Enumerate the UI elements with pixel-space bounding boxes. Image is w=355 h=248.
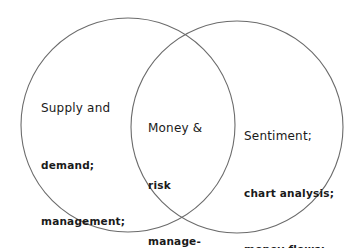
label-line: Supply and bbox=[41, 99, 125, 118]
label-line: demand; bbox=[41, 156, 125, 175]
label-line: money flows; bbox=[244, 240, 334, 248]
label-line: management; bbox=[41, 212, 125, 231]
label-line: risk bbox=[148, 176, 202, 195]
label-line: Sentiment; bbox=[244, 127, 334, 146]
right-circle-label: Sentiment; chart analysis; money flows; … bbox=[244, 89, 334, 248]
intersection-label: Money & risk manage- ment bbox=[148, 81, 202, 248]
label-line: manage- bbox=[148, 232, 202, 248]
label-line: chart analysis; bbox=[244, 184, 334, 203]
label-line: Money & bbox=[148, 119, 202, 138]
left-circle-label: Supply and demand; management; company's… bbox=[41, 61, 125, 248]
